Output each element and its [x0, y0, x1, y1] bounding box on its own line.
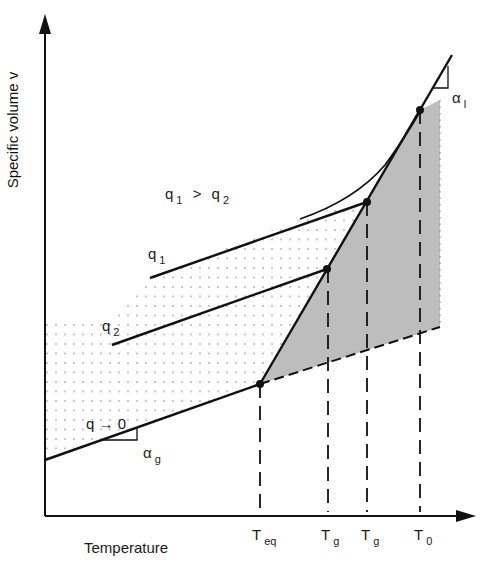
- q-to-zero-label: q → 0: [86, 416, 126, 431]
- q1-label: q1: [148, 246, 165, 261]
- tg1-point: [323, 265, 331, 273]
- alpha-l-sub: l: [464, 98, 466, 110]
- q1-label-base: q: [148, 245, 156, 262]
- teq-base: T: [252, 526, 261, 543]
- x-tick-t0: T0: [414, 527, 432, 542]
- rate-relation-label: q1 > q2: [165, 186, 229, 201]
- greater-than: >: [193, 185, 202, 202]
- y-axis-arrow-icon: [39, 14, 51, 34]
- alpha-l-label: αl: [452, 90, 466, 105]
- x-tick-tg2: Tg: [361, 527, 379, 542]
- tg1-base: T: [321, 526, 330, 543]
- q2-label: q2: [102, 318, 119, 333]
- q1-subscript: 1: [176, 194, 182, 206]
- t0-sub: 0: [426, 535, 432, 547]
- alpha-g-sub: g: [155, 453, 161, 465]
- tg2-base: T: [361, 526, 370, 543]
- x-axis-arrow-icon: [456, 510, 476, 522]
- alpha-g-base: α: [143, 444, 152, 461]
- q2-symbol: q: [212, 185, 220, 202]
- t0-point: [416, 106, 424, 114]
- y-axis-label: Specific volume v: [2, 70, 22, 190]
- tg1-sub: g: [333, 535, 339, 547]
- tg2-sub: g: [373, 535, 379, 547]
- q2-subscript: 2: [223, 194, 229, 206]
- x-axis-label: Temperature: [84, 540, 168, 555]
- q0-base: q: [86, 415, 94, 432]
- t0-base: T: [414, 526, 423, 543]
- teq-point: [256, 380, 264, 388]
- tg2-point: [363, 198, 371, 206]
- q2-label-sub: 2: [113, 326, 119, 338]
- x-tick-teq: Teq: [252, 527, 276, 542]
- q0-zero: 0: [118, 415, 126, 432]
- right-arrow-icon: →: [99, 415, 114, 432]
- alpha-l-base: α: [452, 89, 461, 106]
- q1-label-sub: 1: [159, 254, 165, 266]
- volume-temperature-diagram: [0, 0, 489, 571]
- alpha-g-label: αg: [143, 445, 161, 460]
- x-tick-tg1: Tg: [321, 527, 339, 542]
- q2-label-base: q: [102, 317, 110, 334]
- teq-sub: eq: [264, 535, 276, 547]
- q1-symbol: q: [165, 185, 173, 202]
- y-axis-label-text: Specific volume v: [4, 72, 21, 189]
